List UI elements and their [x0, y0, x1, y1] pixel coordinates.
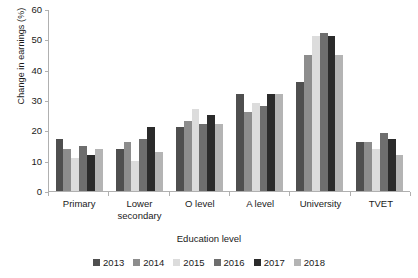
bar-lower-secondary-2016[interactable]	[139, 139, 147, 191]
legend-item-2015[interactable]: 2015	[173, 258, 204, 268]
legend-swatch-icon	[93, 259, 100, 266]
bar-university-2014[interactable]	[304, 55, 312, 192]
bar-chart: Change in earnings (%) 0102030405060 Pri…	[0, 0, 418, 278]
legend-item-2013[interactable]: 2013	[93, 258, 124, 268]
bar-o-level-2016[interactable]	[199, 124, 207, 191]
bar-lower-secondary-2017[interactable]	[147, 127, 155, 191]
y-axis-tick-label: 60	[8, 5, 42, 15]
y-axis-tick-label: 0	[8, 187, 42, 197]
bar-group	[350, 10, 410, 191]
x-axis-tick-marks	[48, 192, 410, 196]
bar-group-bars	[56, 10, 103, 191]
bar-tvet-2015[interactable]	[372, 149, 380, 191]
legend: 201320142015201620172018	[0, 258, 418, 268]
bar-a-level-2017[interactable]	[267, 94, 275, 191]
bar-university-2018[interactable]	[335, 55, 343, 192]
bar-university-2016[interactable]	[320, 33, 328, 191]
bar-a-level-2014[interactable]	[244, 112, 252, 191]
bar-a-level-2015[interactable]	[252, 103, 260, 191]
bar-o-level-2017[interactable]	[207, 115, 215, 191]
bar-o-level-2013[interactable]	[176, 127, 184, 191]
bar-a-level-2016[interactable]	[260, 106, 268, 191]
x-axis-label-a-level: A level	[230, 198, 290, 221]
bar-university-2015[interactable]	[312, 36, 320, 191]
legend-label: 2017	[264, 258, 285, 268]
x-axis-label-university: University	[290, 198, 350, 221]
legend-swatch-icon	[254, 259, 261, 266]
bar-primary-2017[interactable]	[87, 155, 95, 191]
bar-lower-secondary-2013[interactable]	[116, 149, 124, 191]
x-axis-title: Education level	[0, 233, 418, 244]
y-axis-tick-label: 10	[8, 157, 42, 167]
plot-area: 0102030405060	[48, 10, 410, 192]
bar-tvet-2013[interactable]	[356, 142, 364, 191]
y-axis-tick-label: 30	[8, 96, 42, 106]
bar-tvet-2014[interactable]	[364, 142, 372, 191]
bar-group-bars	[236, 10, 283, 191]
bar-a-level-2013[interactable]	[236, 94, 244, 191]
bar-primary-2015[interactable]	[71, 158, 79, 191]
x-axis-labels: PrimaryLower secondaryO levelA levelUniv…	[49, 198, 411, 221]
bar-university-2017[interactable]	[328, 36, 336, 191]
y-axis-tick-label: 40	[8, 66, 42, 76]
bar-lower-secondary-2014[interactable]	[124, 142, 132, 191]
x-axis-tick-mark	[169, 192, 170, 196]
legend-item-2014[interactable]: 2014	[133, 258, 164, 268]
legend-item-2017[interactable]: 2017	[254, 258, 285, 268]
bar-group	[49, 10, 109, 191]
bar-tvet-2018[interactable]	[396, 155, 404, 191]
bar-group	[169, 10, 229, 191]
bar-primary-2016[interactable]	[79, 146, 87, 192]
bar-group-bars	[356, 10, 403, 191]
legend-swatch-icon	[294, 259, 301, 266]
legend-label: 2014	[143, 258, 164, 268]
bar-group	[230, 10, 290, 191]
legend-label: 2015	[183, 258, 204, 268]
x-axis-tick-mark	[410, 192, 411, 196]
x-axis-label-o-level: O level	[170, 198, 230, 221]
legend-label: 2013	[103, 258, 124, 268]
y-axis-tick-label: 20	[8, 127, 42, 137]
legend-item-2018[interactable]: 2018	[294, 258, 325, 268]
y-axis-tick-label: 50	[8, 36, 42, 46]
bar-university-2013[interactable]	[296, 82, 304, 191]
legend-swatch-icon	[133, 259, 140, 266]
bar-o-level-2015[interactable]	[192, 109, 200, 191]
x-axis-label-lower-secondary: Lower secondary	[109, 198, 169, 221]
bar-primary-2014[interactable]	[63, 149, 71, 191]
bar-group	[290, 10, 350, 191]
bar-group	[109, 10, 169, 191]
bar-group-bars	[176, 10, 223, 191]
x-axis-tick-mark	[48, 192, 49, 196]
bar-a-level-2018[interactable]	[275, 94, 283, 191]
x-axis-tick-mark	[350, 192, 351, 196]
legend-item-2016[interactable]: 2016	[214, 258, 245, 268]
bar-o-level-2014[interactable]	[184, 121, 192, 191]
bar-group-bars	[296, 10, 343, 191]
bar-lower-secondary-2018[interactable]	[155, 152, 163, 191]
legend-swatch-icon	[173, 259, 180, 266]
bar-o-level-2018[interactable]	[215, 124, 223, 191]
bar-lower-secondary-2015[interactable]	[131, 161, 139, 191]
legend-swatch-icon	[214, 259, 221, 266]
bar-tvet-2017[interactable]	[388, 139, 396, 191]
x-axis-tick-mark	[229, 192, 230, 196]
bar-group-bars	[116, 10, 163, 191]
x-axis-label-primary: Primary	[49, 198, 109, 221]
bar-tvet-2016[interactable]	[380, 133, 388, 191]
legend-label: 2018	[304, 258, 325, 268]
bar-groups	[49, 10, 410, 191]
x-axis-tick-mark	[108, 192, 109, 196]
bar-primary-2013[interactable]	[56, 139, 64, 191]
x-axis-tick-mark	[289, 192, 290, 196]
legend-label: 2016	[224, 258, 245, 268]
x-axis-label-tvet: TVET	[351, 198, 411, 221]
bar-primary-2018[interactable]	[95, 149, 103, 191]
